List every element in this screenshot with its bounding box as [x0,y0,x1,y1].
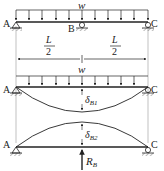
label-a: A [3,18,11,29]
svg-text:L: L [111,34,118,45]
roller-support-b [76,22,88,31]
deflection-label-b1: δB1 [85,94,97,107]
dimension-line [18,55,146,63]
panel-1-continuous-beam: w [3,0,158,63]
reaction-label-rb: RB [85,155,98,169]
panel-3-simply-supported-reaction: A C δB2 RB [3,122,158,170]
pin-support-a [10,147,22,156]
label-b: B [68,23,75,34]
label-c: C [151,84,158,95]
svg-text:2: 2 [46,46,51,57]
deflection-label-b2: δB2 [85,129,98,142]
svg-text:L: L [45,34,52,45]
label-a: A [3,139,11,150]
dimension-right: L 2 [110,34,121,57]
distributed-load [16,76,148,85]
load-label-w: w [78,63,86,75]
label-c: C [151,18,158,29]
panel-2-simply-supported-load: w A C δB1 [3,63,158,112]
svg-text:2: 2 [112,46,117,57]
dimension-left: L 2 [44,34,55,57]
load-label-w: w [78,0,86,11]
label-a: A [3,84,11,95]
label-c: C [151,139,158,150]
beam-superposition-diagram: w [0,0,164,171]
distributed-load [16,10,148,20]
